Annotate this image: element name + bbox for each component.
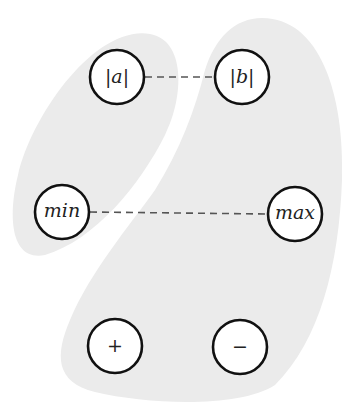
node-abs-a-label: |a|	[105, 65, 129, 88]
diagram-canvas: |a| |b| min max + −	[0, 0, 355, 416]
node-minus: −	[213, 320, 267, 374]
node-minus-label: −	[232, 335, 248, 357]
node-min-label: min	[44, 199, 80, 221]
node-max: max	[268, 187, 322, 241]
node-max-label: max	[275, 201, 315, 223]
node-plus-label: +	[107, 334, 123, 356]
node-plus: +	[88, 319, 142, 373]
node-abs-a: |a|	[90, 50, 144, 104]
node-abs-b: |b|	[215, 50, 269, 104]
node-abs-b-label: |b|	[230, 65, 255, 88]
node-min: min	[35, 185, 89, 239]
